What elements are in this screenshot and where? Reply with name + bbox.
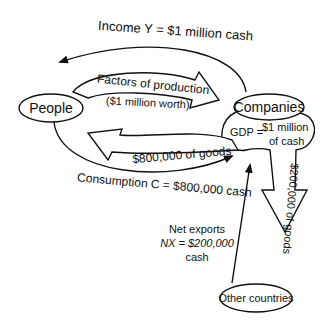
- gdp-value-1: $1 million: [262, 121, 308, 133]
- people-label: People: [29, 100, 73, 116]
- net-exports-label-1: Net exports: [169, 223, 226, 235]
- companies-label: Companies: [234, 99, 305, 115]
- income-label: Income Y = $1 million cash: [98, 18, 254, 44]
- other-countries-label: Other countries: [218, 292, 294, 304]
- net-exports-label-2: NX = $200,000: [160, 237, 235, 249]
- net-exports-arrow: [232, 165, 250, 283]
- gdp-value-2: of cash: [269, 135, 304, 147]
- gdp-label: GDP =: [230, 126, 263, 138]
- net-exports-label-3: cash: [185, 251, 208, 263]
- circular-flow-diagram: Income Y = $1 million cash Factors of pr…: [0, 0, 334, 331]
- consumption-label: Consumption C = $800,000 cash: [77, 170, 253, 199]
